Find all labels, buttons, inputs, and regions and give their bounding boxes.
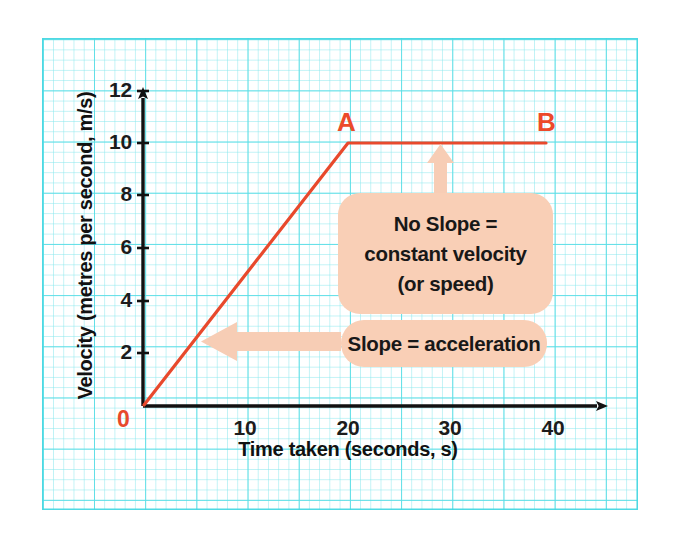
x-tick-label-40: 40 [523,416,583,440]
callout-no-slope-line-3: (or speed) [397,269,493,299]
point-label-b: B [537,107,556,138]
x-tick-label-10: 10 [215,416,275,440]
x-axis-title: Time taken (seconds, s) [143,438,553,461]
callout-slope: Slope = acceleration [341,320,547,367]
y-axis-title: Velocity (metres per second, m/s) [74,81,97,411]
x-tick-label-20: 20 [318,416,378,440]
left-arrow-annotation [201,322,341,361]
origin-label: 0 [117,406,130,433]
point-label-a: A [337,107,356,138]
callout-no-slope-line-2: constant velocity [364,239,526,269]
velocity-time-graph-figure: 12 10 8 6 4 2 10 20 30 40 0 Time taken (… [0,0,676,538]
callout-no-slope: No Slope = constant velocity (or speed) [338,193,553,314]
x-tick-label-30: 30 [420,416,480,440]
callout-no-slope-line-1: No Slope = [394,209,498,239]
up-arrow-annotation [427,144,454,193]
